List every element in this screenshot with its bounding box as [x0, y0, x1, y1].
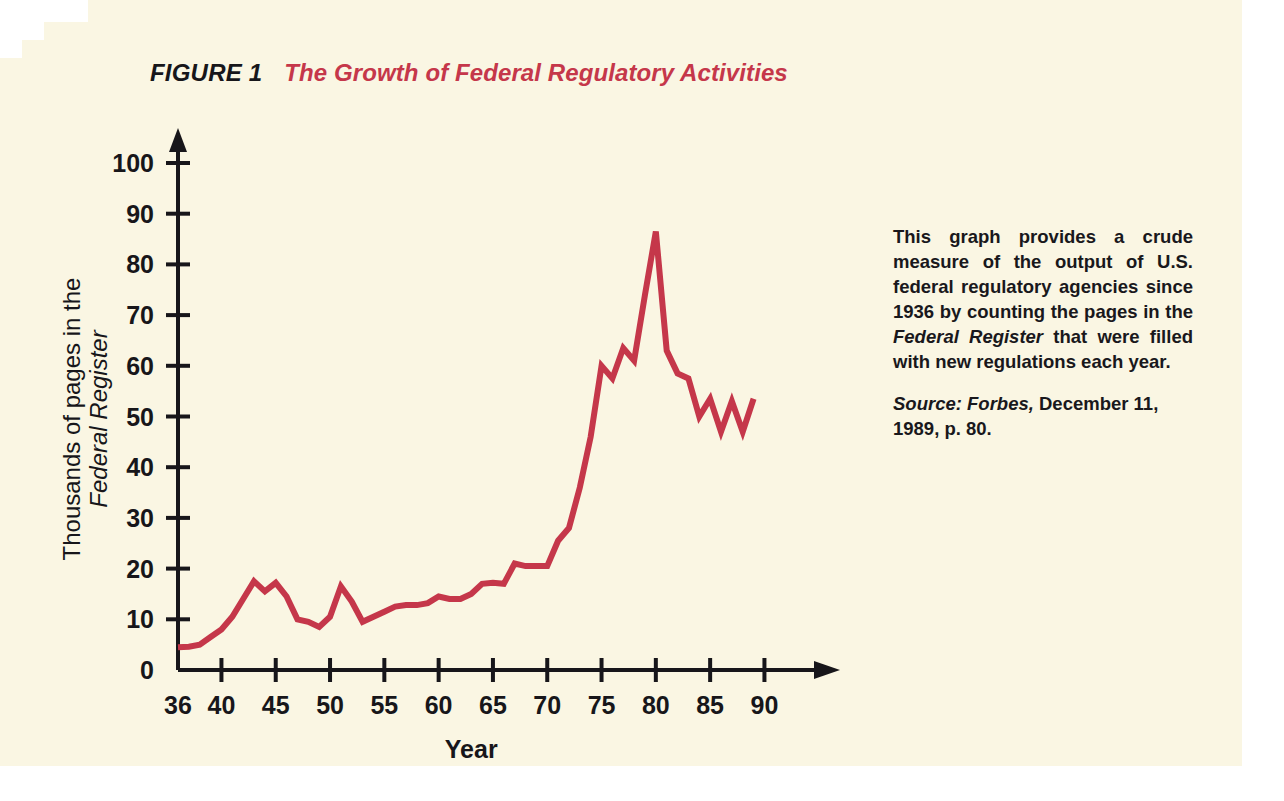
x-axis-arrow-icon [814, 661, 840, 679]
x-axis-tick-label: 90 [751, 691, 779, 719]
y-axis-title-line1: Thousands of pages in the [58, 278, 85, 561]
data-line-series [178, 231, 754, 647]
x-axis-tick-label: 60 [425, 691, 453, 719]
y-axis-tick-label: 10 [126, 605, 154, 633]
x-axis-tick-label: 50 [316, 691, 344, 719]
caption-source: Source: Forbes, December 11, 1989, p. 80… [893, 391, 1193, 441]
y-axis-tick-label: 40 [126, 453, 154, 481]
y-axis-tick-label: 70 [126, 301, 154, 329]
x-axis-tick-label: 80 [642, 691, 670, 719]
source-publication: Forbes, [967, 393, 1034, 414]
y-axis-tick-label: 60 [126, 352, 154, 380]
figure-caption: This graph provides a crude measure of t… [893, 224, 1193, 441]
x-axis-tick-label: 45 [262, 691, 290, 719]
x-axis-tick-label: 55 [370, 691, 398, 719]
y-axis-title-line2: Federal Register [85, 329, 112, 507]
chart-svg: 0102030405060708090100364045505560657075… [0, 0, 900, 790]
y-axis-tick-label: 80 [126, 250, 154, 278]
y-axis-title: Thousands of pages in theFederal Registe… [58, 278, 112, 561]
x-axis-tick-label: 70 [533, 691, 561, 719]
caption-text-italic: Federal Register [893, 326, 1043, 347]
x-axis-title: Year [445, 735, 498, 763]
x-axis-tick-label: 85 [696, 691, 724, 719]
x-axis-tick-label: 65 [479, 691, 507, 719]
line-chart: 0102030405060708090100364045505560657075… [0, 0, 900, 790]
y-axis-tick-label: 50 [126, 403, 154, 431]
caption-body: This graph provides a crude measure of t… [893, 224, 1193, 374]
x-axis-tick-label: 36 [164, 691, 192, 719]
y-axis-arrow-icon [169, 128, 187, 152]
x-axis-tick-label: 75 [588, 691, 616, 719]
y-axis-tick-label: 30 [126, 504, 154, 532]
y-axis-tick-label: 100 [112, 149, 154, 177]
y-axis-tick-label: 90 [126, 200, 154, 228]
x-axis-tick-label: 40 [208, 691, 236, 719]
caption-text-part1: This graph provides a crude measure of t… [893, 226, 1193, 322]
y-axis-tick-label: 0 [140, 656, 154, 684]
y-axis-tick-label: 20 [126, 555, 154, 583]
source-label: Source: [893, 393, 962, 414]
